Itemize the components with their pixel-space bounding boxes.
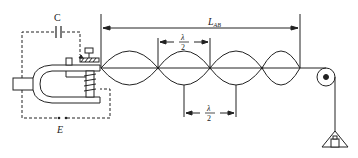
capacitor-icon <box>56 26 61 38</box>
circuit-wire-top <box>62 32 80 55</box>
half-wavelength-lower-denominator: 2 <box>207 114 211 123</box>
capacitor-label: C <box>54 12 61 23</box>
length-ab-dimension <box>103 26 298 30</box>
contact-screw-icon <box>79 48 99 62</box>
diagram-canvas: C E LAB <box>0 0 358 158</box>
half-wavelength-upper-denominator: 2 <box>181 43 185 52</box>
hanging-weight-icon <box>322 131 348 147</box>
half-wavelength-lower-numerator: λ <box>206 104 211 113</box>
battery-icon <box>58 117 68 120</box>
half-wavelength-upper-numerator: λ <box>180 33 185 42</box>
pulley-icon <box>317 68 335 86</box>
battery-label: E <box>56 124 63 135</box>
length-ab-label: LAB <box>207 16 221 28</box>
circuit-wire-left <box>22 32 57 118</box>
electromagnet-coil-icon <box>66 71 96 97</box>
